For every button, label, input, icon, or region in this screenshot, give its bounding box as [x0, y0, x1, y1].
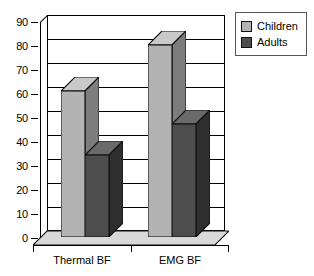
y-tick-80 [31, 46, 38, 47]
y-tick-label-50: 50 [2, 113, 28, 124]
x-tick-middle [131, 245, 132, 252]
bar-front-face [61, 91, 85, 237]
bar-side-face [109, 141, 123, 237]
y-tick-label-20: 20 [2, 185, 28, 196]
gridline-80 [47, 39, 225, 40]
x-category-label-thermal-bf: Thermal BF [33, 254, 131, 266]
y-axis-outer-line [40, 22, 41, 244]
y-tick-label-70: 70 [2, 65, 28, 76]
y-tick-90 [31, 22, 38, 23]
legend-item-adults: Adults [241, 34, 300, 50]
bar-front-face [148, 45, 172, 237]
y-tick-30 [31, 166, 38, 167]
y-tick-label-40: 40 [2, 137, 28, 148]
legend-swatch-adults [241, 37, 252, 48]
chart-legend: Children Adults [235, 12, 307, 56]
bar-chart: 90 80 70 60 50 40 30 20 10 0 [0, 0, 314, 276]
y-tick-label-60: 60 [2, 89, 28, 100]
gridline-70 [47, 63, 225, 64]
y-tick-70 [31, 70, 38, 71]
y-tick-label-90: 90 [2, 17, 28, 28]
y-tick-label-30: 30 [2, 161, 28, 172]
y-tick-60 [31, 94, 38, 95]
legend-swatch-children [241, 21, 252, 32]
x-tick-start [33, 245, 34, 252]
bar-side-face [196, 110, 210, 237]
y-tick-label-80: 80 [2, 41, 28, 52]
y-tick-10 [31, 214, 38, 215]
x-tick-end [228, 245, 229, 252]
bar-front-face [85, 155, 109, 237]
legend-item-children: Children [241, 18, 300, 34]
legend-label-adults: Adults [257, 37, 288, 48]
y-tick-50 [31, 118, 38, 119]
y-tick-label-0: 0 [2, 233, 28, 244]
y-tick-40 [31, 142, 38, 143]
y-tick-label-10: 10 [2, 209, 28, 220]
bar-thermal-bf-adults [85, 141, 123, 237]
bar-front-face [172, 124, 196, 237]
bar-emg-bf-adults [172, 110, 210, 237]
legend-label-children: Children [257, 21, 298, 32]
y-tick-20 [31, 190, 38, 191]
x-category-label-emg-bf: EMG BF [131, 254, 229, 266]
